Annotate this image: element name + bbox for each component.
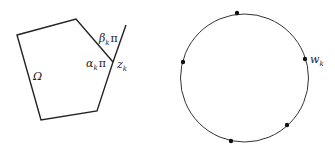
circle-figure: wk [181,11,324,143]
alpha-angle-label: αkπ [86,57,106,72]
prevertex-dot [235,11,239,15]
prevertex-dot [285,123,289,127]
diagram-canvas: Ω βkπ αkπ zk wk [0,0,335,153]
unit-circle [181,14,309,142]
polygon-figure: Ω βkπ αkπ zk [17,19,127,120]
beta-angle-label: βkπ [98,32,118,47]
prevertex-dot [303,57,307,61]
vertex-label-zk: zk [116,58,127,73]
prevertex-dot [181,60,185,64]
point-label-wk: wk [310,53,324,68]
prevertex-dot [229,139,233,143]
region-label-omega: Ω [32,70,42,83]
